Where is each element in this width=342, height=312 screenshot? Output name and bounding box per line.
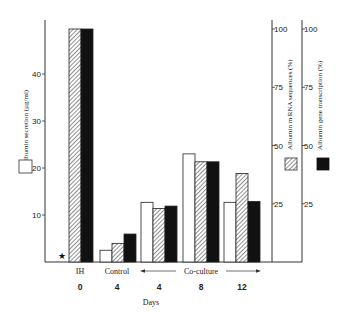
left-axis-title: Albumin secretion (µg/ml): [22, 89, 30, 165]
bar-chart: 10203040 Albumin secretion (µg/ml) 25507…: [0, 0, 342, 312]
left-tick-label: 10: [32, 211, 41, 220]
right1-tick-label: 75: [274, 83, 283, 92]
right1-tick-label: 100: [274, 25, 288, 34]
left-tick-label: 40: [32, 70, 41, 79]
left-tick-label: 20: [32, 164, 41, 173]
category-control: Control: [105, 267, 130, 276]
right-axis-transcription: 255075100 Albumin gene transcription (%): [302, 20, 324, 262]
bar-open-1: [100, 250, 112, 262]
bar-solid-3: [207, 162, 219, 262]
bar-solid-2: [165, 206, 177, 262]
category-coculture: Co-culture: [184, 267, 219, 276]
left-tick-label: 30: [32, 117, 41, 126]
bars: [69, 29, 260, 262]
bar-hatched-3: [195, 162, 207, 262]
bar-hatched-1: [112, 243, 124, 262]
star-annotation: ★: [58, 251, 66, 261]
legend-open-square: [19, 160, 32, 173]
right2-tick-label: 75: [304, 83, 313, 92]
right2-tick-label: 100: [304, 25, 318, 34]
right2-axis-title: Albumin gene transcription (%): [316, 60, 324, 150]
bar-solid-4: [248, 201, 260, 262]
legend-solid-square: [317, 158, 329, 170]
x-axis-title: Days: [143, 298, 159, 307]
bar-hatched-2: [153, 208, 165, 262]
right-axis-mrna: 255075100 Albumin m RNA sequences (%): [272, 20, 294, 262]
category-ih: IH: [76, 267, 85, 276]
left-axis: 10203040 Albumin secretion (µg/ml): [22, 20, 45, 262]
bar-hatched-0: [69, 29, 81, 262]
right2-tick-label: 50: [304, 142, 313, 151]
day-label: 0: [78, 282, 83, 292]
day-label: 8: [199, 282, 204, 292]
bar-open-2: [141, 202, 153, 262]
bar-hatched-4: [236, 173, 248, 262]
day-label: 4: [115, 282, 120, 292]
right2-tick-label: 25: [304, 200, 313, 209]
day-label: 12: [237, 282, 247, 292]
right1-tick-label: 50: [274, 142, 283, 151]
bar-open-4: [224, 202, 236, 262]
bar-open-3: [183, 154, 195, 262]
legend-hatched-square: [285, 158, 297, 170]
right1-axis-title: Albumin m RNA sequences (%): [286, 59, 294, 150]
bar-solid-1: [124, 234, 136, 262]
day-label: 4: [157, 282, 162, 292]
bar-solid-0: [81, 29, 93, 262]
right1-tick-label: 25: [274, 200, 283, 209]
